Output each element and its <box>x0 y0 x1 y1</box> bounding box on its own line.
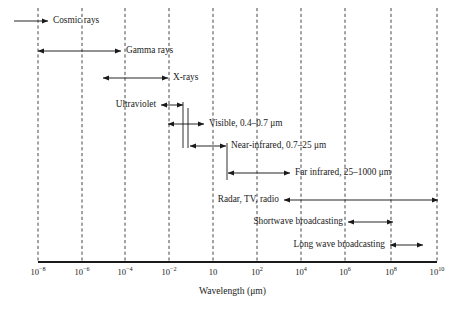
tick-label-10e8: 108 <box>385 268 397 277</box>
tick-label-10e-6: 10−6 <box>74 268 89 277</box>
band-label-cosmic-rays: Cosmic rays <box>53 16 99 25</box>
band-label-visible: Visible, 0.4–0.7 μm <box>209 119 282 128</box>
tick-label-10e6: 106 <box>339 268 351 277</box>
tick-label-10e4: 104 <box>295 268 307 277</box>
tick-label-10e-4: 10−4 <box>117 268 132 277</box>
tick-label-10e2: 102 <box>251 268 263 277</box>
tick-label-10e10: 1010 <box>430 268 445 277</box>
x-axis-title: Wavelength (μm) <box>0 285 465 296</box>
band-label-far-infrared: Far infrared, 25–1000 μm <box>295 168 391 177</box>
spectrum-diagram-canvas <box>0 0 465 310</box>
band-label-x-rays: X-rays <box>173 73 198 82</box>
band-label-radar-tv-radio: Radar, TV, radio <box>218 195 279 204</box>
band-arrows-group <box>14 21 438 245</box>
tick-label-10e-2: 10−2 <box>161 268 176 277</box>
tick-label-10e1: 10 <box>209 268 218 277</box>
connectors-group <box>183 102 227 180</box>
band-label-long-wave-broadcasting: Long wave broadcasting <box>294 240 385 249</box>
band-label-shortwave-broadcasting: Shortwave broadcasting <box>253 217 343 226</box>
tick-label-10e-8: 10−8 <box>30 268 45 277</box>
band-label-gamma-rays: Gamma rays <box>126 46 173 55</box>
band-label-ultraviolet: Ultraviolet <box>116 100 156 109</box>
band-label-near-infrared: Near-infrared, 0.7–25 μm <box>231 141 326 150</box>
gridlines-group <box>38 8 437 262</box>
electromagnetic-spectrum-figure: Cosmic raysGamma raysX-raysUltravioletVi… <box>0 0 465 310</box>
